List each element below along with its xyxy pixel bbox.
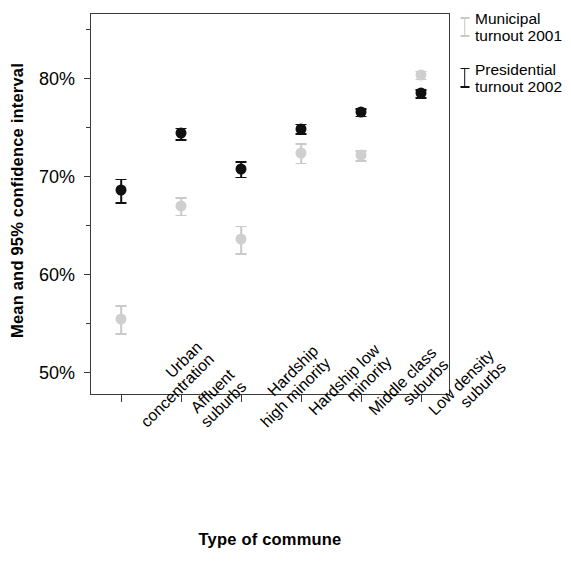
legend-item[interactable]: Presidential turnout 2002 — [458, 61, 571, 96]
marker — [416, 88, 427, 99]
y-tick-major: 50% — [84, 372, 91, 373]
data-point-dark — [111, 14, 131, 396]
y-tick-minor — [86, 127, 91, 128]
error-bar-cap-bottom — [236, 177, 247, 179]
y-tick-major: 70% — [84, 176, 91, 177]
x-axis-title: Type of commune — [90, 530, 450, 549]
data-point-dark — [291, 14, 311, 396]
error-bar-cap-bottom — [116, 202, 127, 204]
error-bar-cap-top — [116, 179, 127, 181]
y-tick-label: 70% — [39, 168, 75, 186]
y-tick-minor — [86, 323, 91, 324]
plot-area: 50%60%70%80% — [90, 13, 450, 395]
legend-item[interactable]: Municipal turnout 2001 — [458, 10, 571, 45]
data-point-dark — [171, 14, 191, 396]
chart-legend: Municipal turnout 2001Presidential turno… — [458, 10, 571, 111]
data-point-dark — [351, 14, 371, 396]
y-tick-major: 60% — [84, 274, 91, 275]
y-tick-label: 80% — [39, 70, 75, 88]
y-axis-title: Mean and 95% confidence interval — [0, 0, 36, 400]
legend-error-bar-icon — [458, 14, 471, 40]
data-point-dark — [231, 14, 251, 396]
marker — [176, 128, 187, 139]
marker — [236, 163, 247, 174]
y-tick-minor — [86, 225, 91, 226]
legend-label: Municipal turnout 2001 — [475, 10, 562, 45]
error-bar-cap-bottom — [176, 139, 187, 141]
marker — [116, 185, 127, 196]
y-tick-label: 60% — [39, 266, 75, 284]
marker — [356, 106, 367, 117]
y-tick-major: 80% — [84, 78, 91, 79]
legend-label: Presidential turnout 2002 — [475, 61, 562, 96]
marker — [296, 123, 307, 134]
data-point-dark — [411, 14, 431, 396]
legend-error-bar-icon — [458, 65, 471, 91]
y-tick-label: 50% — [39, 364, 75, 382]
y-tick-minor — [86, 29, 91, 30]
y-axis-title-text: Mean and 95% confidence interval — [9, 62, 28, 337]
